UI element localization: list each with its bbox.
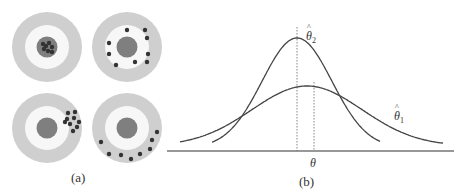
bullseye (37, 118, 58, 139)
target-high-bias-high-variance (92, 93, 162, 163)
panel-b-distributions (167, 27, 454, 151)
shot-dot (71, 129, 75, 133)
target-low-bias-high-variance (92, 12, 162, 82)
shot-dot (138, 152, 142, 156)
panel-b-caption: (b) (299, 175, 314, 188)
shot-dot (119, 153, 123, 157)
theta1-symbol: θ (394, 110, 400, 122)
shot-dot (114, 63, 118, 67)
theta-axis-label: θ (310, 157, 316, 169)
shot-dot (145, 36, 149, 40)
theta2-symbol: θ (306, 30, 312, 42)
shot-dot (75, 125, 79, 129)
shot-dot (133, 60, 137, 64)
shot-dot (107, 41, 111, 45)
target-low-bias-low-variance (12, 12, 82, 82)
shot-dot (107, 52, 111, 56)
shot-dot (150, 138, 154, 142)
shot-dot (72, 116, 76, 120)
shot-dot (44, 44, 48, 48)
target-high-bias-low-variance (12, 93, 82, 163)
shot-dot (145, 60, 149, 64)
shot-dot (68, 122, 72, 126)
shot-dot (107, 152, 111, 156)
shot-dot (77, 120, 81, 124)
panel-a-targets (12, 12, 162, 163)
shot-dot (50, 50, 54, 54)
theta2-curve (212, 38, 380, 142)
theta1-subscript: 1 (400, 116, 404, 125)
shot-dot (155, 130, 159, 134)
shot-dot (63, 120, 67, 124)
shot-dot (146, 52, 150, 56)
shot-dot (46, 49, 50, 53)
bias-variance-figure (0, 0, 466, 192)
shot-dot (143, 28, 147, 32)
shot-dot (148, 147, 152, 151)
theta2-subscript: 2 (312, 36, 316, 45)
shot-dot (66, 111, 70, 115)
panel-a-caption: (a) (71, 171, 85, 184)
shot-dot (99, 140, 103, 144)
shot-dot (129, 157, 133, 161)
bullseye (117, 118, 138, 139)
shot-dot (125, 28, 129, 32)
shot-dot (73, 110, 77, 114)
theta1-label: θ1 (394, 110, 404, 125)
shot-dot (50, 45, 54, 49)
theta2-label: θ2 (306, 30, 316, 45)
bullseye (117, 37, 138, 58)
